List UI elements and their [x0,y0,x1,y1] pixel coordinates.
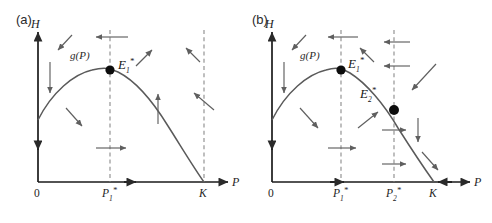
panel-b-arrow-down-left-curved [412,64,436,90]
panel-a-arrow-up-right [136,50,152,66]
panel-a-axes: H P [30,17,240,189]
panel-b-equilibrium-label-2: E2* [359,85,377,104]
panel-a-tick-k: K [198,187,208,199]
panel-a-arrow-up-left-top [186,48,200,62]
panel-a-equilibrium-label-1: E1* [117,56,135,75]
panel-a-tick-origin: 0 [34,187,40,199]
panel-a-curve-label: g(P) [70,49,90,62]
panel-b-y-axis-label: H [264,17,275,31]
panel-b-x-axis-label: P [473,175,482,189]
panel-b-arrow-down-left-top [292,35,306,50]
panel-b-axes: H P [264,17,482,189]
panel-a-y-axis-label: H [30,17,41,31]
panel-b-equilibrium-point-1 [336,65,345,74]
panel-a-tag: (a) [16,12,32,27]
panel-b-tick-p1: P1* [332,185,349,203]
panel-a-equilibrium-point-1 [105,65,114,74]
panel-a-arrow-down-left [58,35,72,50]
panel-a: (a) H P E1* g(P) 0 P1* K [16,12,240,203]
panel-b-tick-origin: 0 [268,187,274,199]
panel-a-direction-field [38,35,214,182]
panel-b-equilibrium-point-2 [389,105,399,115]
panel-a-x-axis-label: P [231,175,240,189]
panel-a-arrow-down-right [66,108,82,126]
panel-b-equilibrium-label-1: E1* [347,55,365,74]
panel-b-tick-p2: P2* [385,185,402,203]
panel-b-tick-k: K [428,187,438,199]
panel-b-arrow-up-right-to-e2 [358,112,378,128]
panel-b: (b) H P E1* E2* g(P) 0 P1* [252,12,482,203]
panel-b-growth-curve [272,68,434,182]
panel-b-arrow-down-right-lower [300,108,318,128]
panel-a-growth-curve [38,68,204,182]
panel-b-curve-label: g(P) [300,49,320,62]
phase-plane-figure: (a) H P E1* g(P) 0 P1* K [0,0,492,223]
panel-a-tick-p1: P1* [101,185,118,203]
